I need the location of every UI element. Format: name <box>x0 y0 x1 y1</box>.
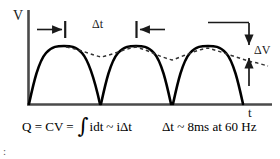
x-axis-label: t <box>248 106 252 119</box>
charge-equation: Q = CV = ∫ idt ~ iΔt <box>22 119 132 135</box>
rectified-waveform <box>29 46 243 104</box>
y-axis-label: V <box>13 9 23 23</box>
stray-artifact-mark: : <box>3 146 6 157</box>
rectifier-ripple-figure: V t Δt ΔV Q = CV = ∫ idt ~ iΔt Δt ~ 8ms … <box>0 0 280 159</box>
figure-canvas <box>0 0 280 159</box>
integrand-term: idt <box>90 119 104 135</box>
envelope-dashed-curve <box>66 47 268 66</box>
hump-3 <box>173 46 243 104</box>
period-note: Δt ~ 8ms at 60 Hz <box>162 119 256 135</box>
charge-equation-lead: Q = CV = <box>22 119 74 135</box>
delta-v-annotation-label: ΔV <box>254 44 270 56</box>
delta-t-annotation-label: Δt <box>92 18 103 30</box>
ripple-envelope <box>66 47 268 66</box>
approx-expression: iΔt <box>116 119 132 135</box>
equation-row: Q = CV = ∫ idt ~ iΔt Δt ~ 8ms at 60 Hz <box>22 119 256 135</box>
hump-1 <box>29 46 100 104</box>
approx-sign: ~ <box>106 119 113 135</box>
axes-group <box>27 10 272 105</box>
